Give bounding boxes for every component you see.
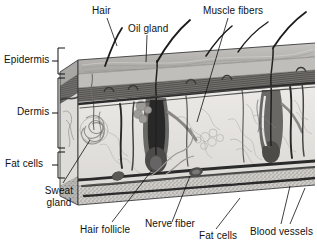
skin-block [60,12,315,205]
label-fat-cells-bottom: Fat cells [199,230,237,241]
label-nerve-fiber: Nerve fiber [145,218,195,229]
label-dermis: Dermis [17,106,49,117]
label-epidermis: Epidermis [4,54,49,65]
block-side-face [60,60,78,205]
label-oil-gland: Oil gland [128,23,168,34]
label-hair: Hair [92,5,111,16]
label-hair-follicle: Hair follicle [80,224,130,235]
leader-blood-vessels-1 [281,186,290,224]
leader-blood-vessels-2 [290,188,305,224]
label-muscle-fibers: Muscle fibers [203,5,263,16]
skin-illustration [0,0,317,245]
leader-hair [107,18,117,46]
block-front-face [78,48,315,205]
leader-fat-cells [216,198,240,229]
label-blood-vessels: Blood vessels [250,226,313,237]
label-sweat-gland: Sweatgland [31,185,87,208]
skin-diagram-figure: Epidermis Dermis Fat cells Hair Oil glan… [0,0,317,245]
label-fat-cells-left: Fat cells [5,158,43,169]
label-sweat-gland-line2: gland [47,197,72,208]
label-sweat-gland-line1: Sweat [45,185,73,196]
